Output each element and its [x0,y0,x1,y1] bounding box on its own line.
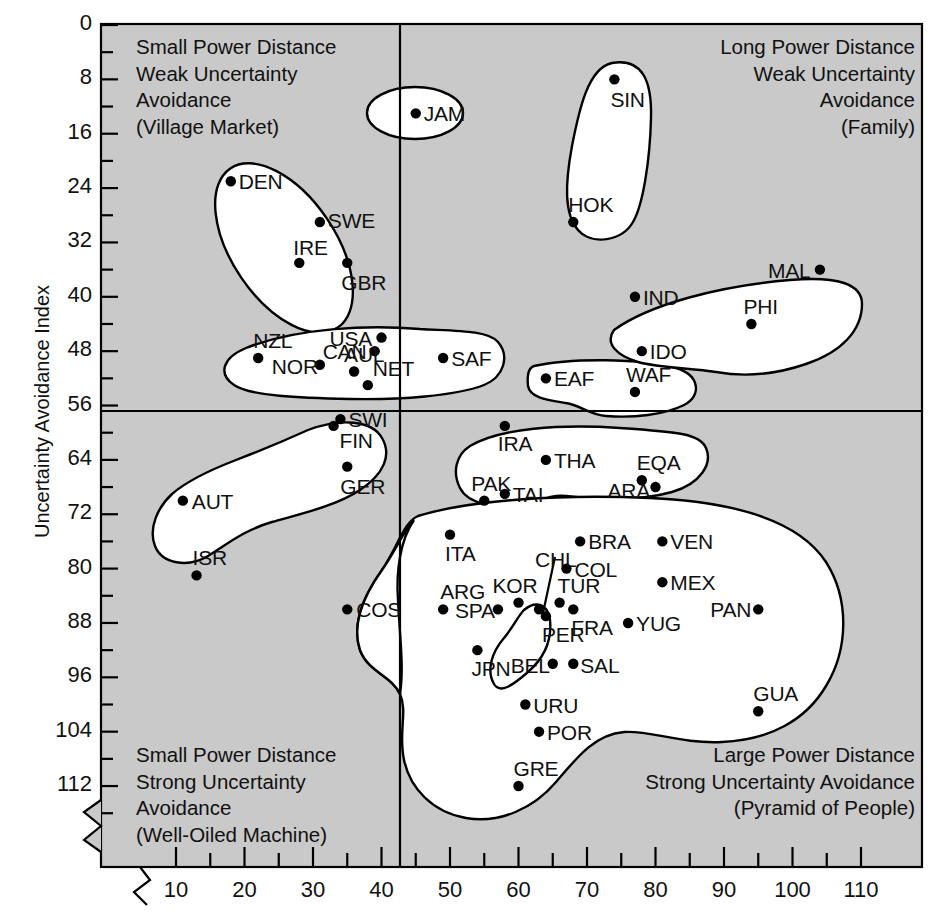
data-point-eaf [541,373,551,383]
quadrant-caption-line: (Village Market) [136,114,337,141]
quadrant-caption-line: Avoidance [136,87,337,114]
x-tick-label: 110 [821,877,901,903]
country-label-ire: IRE [293,236,327,260]
data-point-mex [657,577,667,587]
country-label-ido: IDO [650,340,687,364]
quadrant-caption-line: Avoidance [720,87,915,114]
country-label-tur: TUR [558,574,601,598]
country-label-den: DEN [239,170,283,194]
y-tick-label: 104 [14,717,92,743]
data-point-net [363,380,373,390]
quadrant-caption-line: Strong Uncertainty Avoidance [645,769,915,796]
country-label-cos: COS [356,598,401,622]
data-point-uru [520,699,530,709]
data-point-ira [500,421,510,431]
country-label-hok: HOK [568,193,613,217]
data-point-ido [637,346,647,356]
country-label-ita: ITA [445,542,476,566]
data-point-mal [815,264,825,274]
data-point-isr [191,570,201,580]
country-label-net: NET [373,357,414,381]
country-label-eaf: EAF [554,367,594,391]
country-label-jpn: JPN [471,657,510,681]
y-tick-label: 80 [14,554,92,580]
country-label-nor: NOR [272,355,318,379]
y-tick-label: 64 [14,445,92,471]
y-tick-label: 24 [14,173,92,199]
data-point-hok [568,217,578,227]
quadrant-caption-line: Small Power Distance [136,742,337,769]
data-point-fin [328,421,338,431]
data-point-swe [315,217,325,227]
data-point-phi [746,319,756,329]
data-point-saf [438,353,448,363]
data-point-sal [568,659,578,669]
y-tick-label: 112 [14,771,92,797]
data-point-gbr [342,258,352,268]
data-point-gre [513,781,523,791]
y-tick-label: 56 [14,391,92,417]
country-label-tha: THA [554,449,595,473]
data-point-arg [438,604,448,614]
country-label-sal: SAL [580,654,619,678]
country-label-ind: IND [643,286,679,310]
country-label-phi: PHI [743,295,777,319]
country-label-kor: KOR [493,574,538,598]
data-point-por [534,726,544,736]
country-label-fin: FIN [340,429,373,453]
data-point-usa [376,332,386,342]
data-point-jam [411,108,421,118]
country-label-ger: GER [340,475,385,499]
quadrant-caption-line: Large Power Distance [645,742,915,769]
data-point-den [226,176,236,186]
country-label-tai: TAI [513,483,544,507]
y-tick-label: 96 [14,662,92,688]
data-point-ger [342,461,352,471]
data-point-per [541,611,551,621]
data-point-nzl [253,353,263,363]
data-point-sin [609,74,619,84]
country-label-gre: GRE [514,757,559,781]
y-tick-label: 0 [14,10,92,36]
quadrant-caption-top-right: Long Power Distance Weak Uncertainty Avo… [720,34,915,141]
data-point-aut [178,495,188,505]
quadrant-caption-top-left: Small Power Distance Weak Uncertainty Av… [136,34,337,141]
country-label-spa: SPA [455,599,495,623]
country-label-per: PER [542,623,585,647]
quadrant-caption-line: Long Power Distance [720,34,915,61]
data-point-ita [445,529,455,539]
data-point-fra [568,604,578,614]
country-label-saf: SAF [451,347,491,371]
country-label-aut: AUT [192,490,233,514]
country-label-gua: GUA [753,682,798,706]
y-tick-label: 48 [14,336,92,362]
data-point-pak [479,495,489,505]
country-label-mal: MAL [768,259,811,283]
country-label-uru: URU [533,694,578,718]
data-point-ind [630,292,640,302]
quadrant-caption-line: (Pyramid of People) [645,795,915,822]
chart-figure: Uncertainty Avoidance Index Small Power … [0,0,943,920]
quadrant-caption-line: (Family) [720,114,915,141]
data-point-tha [541,455,551,465]
quadrant-caption-line: Weak Uncertainty [136,61,337,88]
data-point-pan [753,604,763,614]
country-label-nzl: NZL [253,329,292,353]
data-point-bra [575,536,585,546]
country-label-jam: JAM [424,102,465,126]
data-point-yug [623,618,633,628]
quadrant-caption-bottom-left: Small Power Distance Strong Uncertainty … [136,742,337,849]
y-tick-label: 72 [14,499,92,525]
country-label-bel: BEL [511,654,550,678]
quadrant-caption-line: Strong Uncertainty [136,769,337,796]
country-label-gbr: GBR [341,271,386,295]
y-tick-label: 16 [14,119,92,145]
country-label-ven: VEN [670,530,713,554]
y-axis-break-zigzag [84,800,101,852]
data-point-waf [630,387,640,397]
country-label-por: POR [547,721,592,745]
data-point-tur [554,597,564,607]
country-label-eqa: EQA [637,451,681,475]
y-tick-label: 40 [14,282,92,308]
data-point-kor [513,597,523,607]
